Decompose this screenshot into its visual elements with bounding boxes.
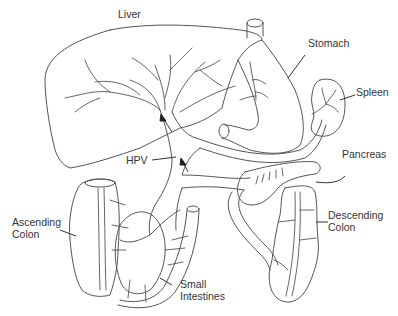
descending-colon-shape — [269, 186, 318, 302]
splenic-vein — [196, 120, 326, 163]
ascending-colon-label-line2: Colon — [12, 228, 61, 240]
spleen-leader — [340, 95, 355, 100]
esophagus-shape — [247, 19, 263, 38]
ascending-colon-label: Ascending Colon — [12, 216, 61, 240]
hpv-label: HPV — [126, 154, 148, 166]
ascending-colon-leader — [60, 230, 76, 236]
stomach-leader — [288, 55, 305, 78]
pancreas-leader — [316, 176, 345, 183]
stomach-shape — [219, 40, 303, 153]
small-intestines-label-line2: Intestines — [180, 290, 225, 302]
superior-mesenteric-vein — [120, 235, 150, 242]
small-intestines-label: Small Intestines — [180, 278, 225, 302]
liver-label: Liver — [118, 8, 141, 20]
small-intestines-label-line1: Small — [180, 278, 225, 290]
spleen-shape — [311, 79, 345, 136]
descending-colon-label: Descending Colon — [328, 209, 383, 233]
inferior-mesenteric-vein — [228, 190, 278, 270]
pancreas-label: Pancreas — [342, 148, 386, 160]
descending-colon-label-line1: Descending — [328, 209, 383, 221]
hepatic-portal-vein — [149, 110, 250, 235]
liver-shape — [45, 25, 262, 168]
ascending-colon-label-line1: Ascending — [12, 216, 61, 228]
stomach-label: Stomach — [308, 37, 349, 49]
pancreas-shape — [238, 162, 321, 205]
spleen-label: Spleen — [356, 86, 389, 98]
descending-colon-label-line2: Colon — [328, 221, 383, 233]
